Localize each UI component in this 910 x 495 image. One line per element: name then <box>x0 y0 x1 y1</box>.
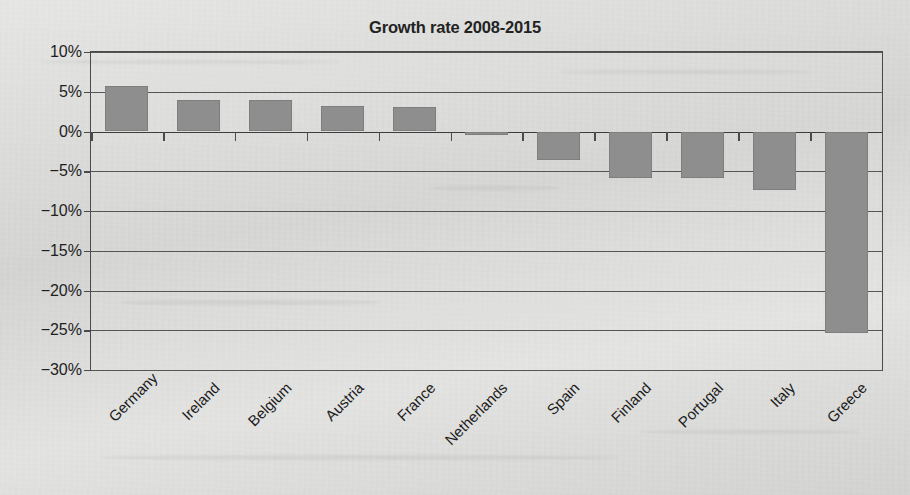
bar-belgium[interactable] <box>249 100 292 132</box>
y-axis-tick <box>84 132 91 133</box>
x-axis-tick <box>522 132 524 141</box>
y-axis-tick <box>84 52 91 53</box>
x-axis-tick <box>810 132 812 141</box>
y-axis-label: −15% <box>41 242 82 260</box>
bar-netherlands[interactable] <box>465 132 508 135</box>
y-axis-label: 5% <box>59 83 82 101</box>
x-axis-tick <box>379 132 381 141</box>
gridline-5 <box>91 92 882 93</box>
bar-finland[interactable] <box>609 132 652 178</box>
y-axis-label: −10% <box>41 202 82 220</box>
x-axis-tick <box>594 132 596 141</box>
y-axis-label: 0% <box>59 123 82 141</box>
y-axis-tick <box>84 211 91 212</box>
y-axis-label: −20% <box>41 282 82 300</box>
bar-italy[interactable] <box>753 132 796 191</box>
y-axis-tick <box>84 330 91 331</box>
y-axis-tick <box>84 92 91 93</box>
y-axis-tick <box>84 171 91 172</box>
y-axis-label: −5% <box>50 162 82 180</box>
x-axis-tick <box>163 132 165 141</box>
gridline--10 <box>91 211 882 212</box>
y-axis-label: −25% <box>41 321 82 339</box>
plot-area: 10%5%0%−5%−10%−15%−20%−25%−30%GermanyIre… <box>90 51 883 371</box>
x-axis-tick <box>451 132 453 141</box>
bar-france[interactable] <box>393 107 436 132</box>
x-axis-tick <box>235 132 237 141</box>
bar-ireland[interactable] <box>177 100 220 132</box>
bar-germany[interactable] <box>105 86 148 131</box>
bar-greece[interactable] <box>825 132 868 333</box>
x-axis-tick <box>738 132 740 141</box>
x-axis-tick <box>666 132 668 141</box>
gridline-10 <box>91 52 882 53</box>
y-axis-tick <box>84 291 91 292</box>
y-axis-label: −30% <box>41 361 82 379</box>
x-axis-tick <box>307 132 309 141</box>
bar-spain[interactable] <box>537 132 580 161</box>
bar-portugal[interactable] <box>681 132 724 178</box>
y-axis-tick <box>84 370 91 371</box>
chart-title: Growth rate 2008-2015 <box>0 18 910 37</box>
gridline--30 <box>91 370 882 371</box>
y-axis-tick <box>84 251 91 252</box>
gridline--25 <box>91 330 882 331</box>
bar-austria[interactable] <box>321 106 364 131</box>
gridline--20 <box>91 291 882 292</box>
gridline--15 <box>91 251 882 252</box>
x-axis-tick <box>91 132 93 141</box>
y-axis-label: 10% <box>50 43 82 61</box>
